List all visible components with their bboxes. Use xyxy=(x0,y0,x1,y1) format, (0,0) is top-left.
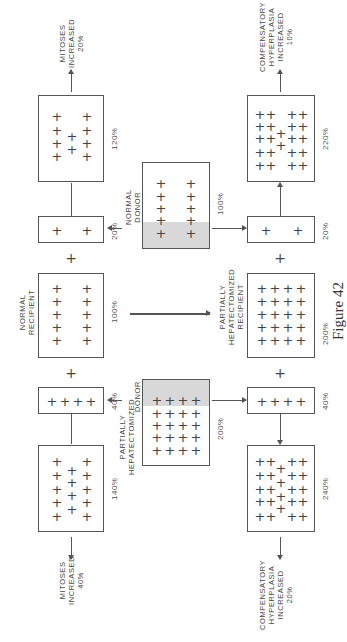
donor-fraction-box-20-left: ++ xyxy=(38,216,104,243)
label-normal-donor: NORMAL DONOR xyxy=(124,189,142,225)
pct-220: 220% xyxy=(321,128,330,150)
normal-donor-box: ++ ++ ++ ++ ++ xyxy=(142,162,210,249)
plus-operator: + xyxy=(274,252,286,265)
figure-caption: Figure 42 xyxy=(330,282,347,340)
arrow-to-40-left xyxy=(108,400,122,401)
arrow-40-to-240 xyxy=(280,414,281,444)
arrow-20-to-220 xyxy=(280,183,281,216)
outcome-mitoses-40: MITOSES INCREASED 40% xyxy=(58,556,85,605)
outcome-mitoses-20: MITOSES INCREASED 20% xyxy=(58,19,85,68)
donor-removed-fraction xyxy=(143,222,209,248)
pct-200-donor: 200% xyxy=(216,418,225,440)
connector-20-to-120 xyxy=(71,183,72,216)
result-box-140: ++ + +++ +++ +++ ++ xyxy=(38,445,104,532)
arrow-up-right-top xyxy=(280,70,281,92)
arrow-down-right-bottom xyxy=(280,537,281,559)
connector-40-to-140 xyxy=(71,414,72,444)
arrow-up-left-top xyxy=(71,70,72,92)
arrow-recipient-comparison xyxy=(130,313,210,315)
arrow-to-20-left xyxy=(108,228,122,229)
donor-fraction-box-40-right: ++++ xyxy=(247,387,315,414)
result-box-220: ++++ ++++ + ++++ + ++++ ++++ xyxy=(247,95,315,182)
pct-140: 140% xyxy=(110,478,119,500)
pct-100-donor: 100% xyxy=(216,193,225,215)
arrow-to-40-right xyxy=(212,400,246,401)
pct-240: 240% xyxy=(321,478,330,500)
label-ph-recipient: PARTIALLY HEPATECTOMIZED RECIPIENT xyxy=(218,269,245,345)
outcome-hyperplasia-20: COMPENSATORY HYPERPLASIA INCREASED 20% xyxy=(258,560,294,630)
outcome-hyperplasia-10: COMPENSATORY HYPERPLASIA INCREASED 10% xyxy=(258,2,294,72)
pct-120: 120% xyxy=(110,128,119,150)
donor-fraction-box-20-right: ++ xyxy=(247,216,315,243)
ph-recipient-box: ++++ ++++ ++++ ++++ ++++ xyxy=(247,273,315,358)
result-box-240: ++++ + ++++ + ++++ + ++++ + ++++ xyxy=(247,445,315,532)
pct-20-right: 20% xyxy=(321,222,330,240)
label-ph-donor-donor: DONOR xyxy=(133,381,142,412)
pct-200-recipient: 200% xyxy=(321,323,330,345)
arrow-to-20-right xyxy=(212,228,246,229)
pct-100-recipient: 100% xyxy=(110,301,119,323)
plus-operator: + xyxy=(65,252,77,265)
plus-operator: + xyxy=(274,367,286,380)
label-normal-recipient: NORMAL RECIPIENT xyxy=(18,290,36,335)
result-box-120: ++ +++ +++ ++ xyxy=(38,95,104,182)
donor-fraction-box-40-left: ++++ xyxy=(38,387,104,414)
ph-donor-box: ++++ ++++ ++++ ++++ ++++ xyxy=(142,379,210,466)
pct-40-right: 40% xyxy=(321,392,330,410)
plus-operator: + xyxy=(65,367,77,380)
normal-recipient-box: ++ ++ ++ ++ ++ xyxy=(38,273,104,358)
